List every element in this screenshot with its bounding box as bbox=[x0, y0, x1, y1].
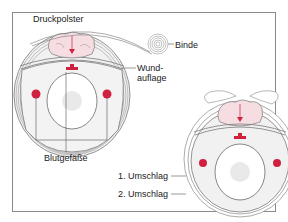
blood-vessel-right bbox=[103, 90, 112, 99]
label-blutgefaesse: Blutgefäße bbox=[44, 153, 88, 163]
limb-cross-section-left bbox=[14, 32, 130, 157]
limb-cross-section-right bbox=[184, 91, 288, 217]
label-umschlag-2: 2. Umschlag bbox=[118, 189, 168, 199]
label-wundauflage-2: auflage bbox=[137, 73, 167, 83]
pressure-pad bbox=[48, 32, 94, 58]
label-wundauflage-1: Wund- bbox=[137, 63, 163, 73]
label-binde: Binde bbox=[175, 40, 198, 50]
label-umschlag-1: 1. Umschlag bbox=[118, 171, 168, 181]
label-druckpolster: Druckpolster bbox=[33, 14, 84, 24]
blood-vessel-left bbox=[32, 90, 41, 99]
